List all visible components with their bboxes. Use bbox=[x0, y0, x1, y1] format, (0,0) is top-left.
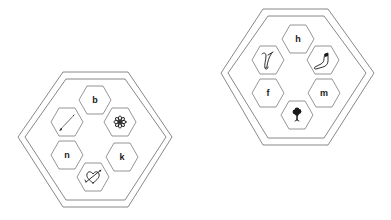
cell-letter: h bbox=[295, 34, 301, 44]
left-cell-lower-right[interactable]: k bbox=[106, 143, 138, 171]
right-cell-upper-right[interactable] bbox=[307, 46, 339, 74]
right-cell-lower-left[interactable]: f bbox=[252, 79, 284, 107]
right-cell-upper-left[interactable] bbox=[252, 46, 284, 74]
cell-letter: b bbox=[92, 95, 98, 105]
left-cell-bottom[interactable] bbox=[77, 163, 109, 191]
left-cell-top[interactable]: b bbox=[79, 86, 111, 114]
left-hex-puzzle: b bbox=[18, 72, 172, 207]
right-hex-puzzle: h f m bbox=[221, 9, 374, 145]
right-cell-lower-right[interactable]: m bbox=[308, 79, 340, 107]
left-cell-upper-left[interactable] bbox=[51, 108, 83, 136]
right-cell-top[interactable]: h bbox=[282, 25, 314, 53]
left-cell-lower-left[interactable]: n bbox=[51, 141, 83, 169]
puzzle-canvas: b bbox=[0, 0, 391, 220]
cell-letter: m bbox=[320, 88, 328, 98]
cell-letter: n bbox=[64, 150, 70, 160]
right-cell-bottom[interactable] bbox=[281, 101, 313, 129]
left-cell-upper-right[interactable] bbox=[104, 108, 136, 136]
